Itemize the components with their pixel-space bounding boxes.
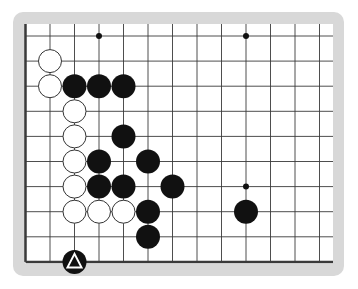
star-point xyxy=(243,33,249,39)
black-stone[interactable] xyxy=(161,175,185,199)
black-stone[interactable] xyxy=(63,74,87,98)
white-stone[interactable] xyxy=(39,50,62,73)
black-stone[interactable] xyxy=(136,150,160,174)
black-stone[interactable] xyxy=(112,124,136,148)
white-stone[interactable] xyxy=(63,150,86,173)
go-board[interactable] xyxy=(0,0,358,289)
black-stone[interactable] xyxy=(234,200,258,224)
black-stone[interactable] xyxy=(87,74,111,98)
white-stone[interactable] xyxy=(88,200,111,223)
black-stone[interactable] xyxy=(136,200,160,224)
black-stone[interactable] xyxy=(112,175,136,199)
black-stone[interactable] xyxy=(136,225,160,249)
white-stone[interactable] xyxy=(112,200,135,223)
white-stone[interactable] xyxy=(63,100,86,123)
black-stone[interactable] xyxy=(112,74,136,98)
white-stone[interactable] xyxy=(63,175,86,198)
black-stone[interactable] xyxy=(87,175,111,199)
star-point xyxy=(96,33,102,39)
star-point xyxy=(243,184,249,190)
white-stone[interactable] xyxy=(63,125,86,148)
white-stone[interactable] xyxy=(63,200,86,223)
black-stone[interactable] xyxy=(87,150,111,174)
white-stone[interactable] xyxy=(39,75,62,98)
